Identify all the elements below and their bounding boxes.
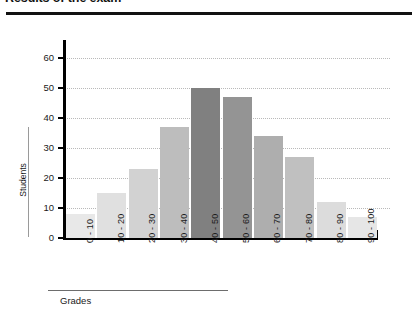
- y-tick-30: [58, 147, 64, 149]
- x-tick-label: 80 - 90: [335, 183, 345, 243]
- x-axis-title: Grades: [60, 295, 91, 306]
- y-tick-label: 50: [30, 83, 54, 93]
- y-tick-label: 30: [30, 143, 54, 153]
- x-tick-label: 70 - 80: [304, 183, 314, 243]
- y-tick-label: 60: [30, 53, 54, 63]
- y-tick-50: [58, 87, 64, 89]
- x-tick-label: 30 - 40: [179, 183, 189, 243]
- y-tick-20: [58, 177, 64, 179]
- x-tick-label: 90 - 100: [366, 183, 376, 243]
- x-tick-label: 20 - 30: [147, 183, 157, 243]
- y-tick-10: [58, 207, 64, 209]
- y-tick-0: [58, 237, 64, 239]
- y-tick-label: 0: [30, 233, 54, 243]
- y-axis-title-rule: [28, 127, 29, 237]
- y-tick-label: 20: [30, 173, 54, 183]
- y-axis-title: Students: [18, 145, 28, 215]
- x-tick-label: 40 - 50: [210, 183, 220, 243]
- y-tick-40: [58, 117, 64, 119]
- y-tick-60: [58, 57, 64, 59]
- x-tick-label: 0 - 10: [85, 183, 95, 243]
- x-tick-label: 60 - 70: [272, 183, 282, 243]
- x-tick-label: 10 - 20: [116, 183, 126, 243]
- y-tick-label: 40: [30, 113, 54, 123]
- bar-series: [65, 40, 378, 238]
- x-axis-title-rule: [48, 290, 228, 291]
- x-tick-label: 50 - 60: [241, 183, 251, 243]
- y-tick-label: 10: [30, 203, 54, 213]
- histogram-figure: 0102030405060 Students 0 - 1010 - 2020 -…: [0, 0, 418, 316]
